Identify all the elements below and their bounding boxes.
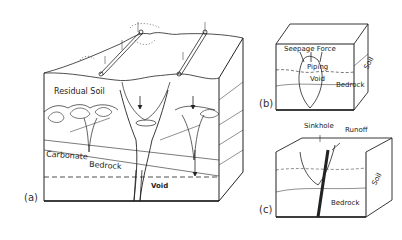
label-void-b: Void [310, 76, 325, 83]
panel-b-tag: (b) [259, 99, 273, 109]
label-bedrock-c: Bedrock [331, 200, 359, 207]
label-seepage-force: Seepage Force [284, 46, 336, 53]
label-sinkhole: Sinkhole [304, 123, 334, 130]
label-runoff: Runoff [345, 127, 368, 134]
panel-a-tag: (a) [24, 193, 38, 203]
label-residual-soil: Residual Soil [54, 88, 105, 96]
label-piping: Piping [307, 64, 328, 71]
panel-a-block [44, 22, 243, 201]
label-void-a: Void [151, 183, 168, 190]
panel-c-tag: (c) [259, 205, 272, 215]
label-bedrock-b: Bedrock [336, 82, 364, 89]
